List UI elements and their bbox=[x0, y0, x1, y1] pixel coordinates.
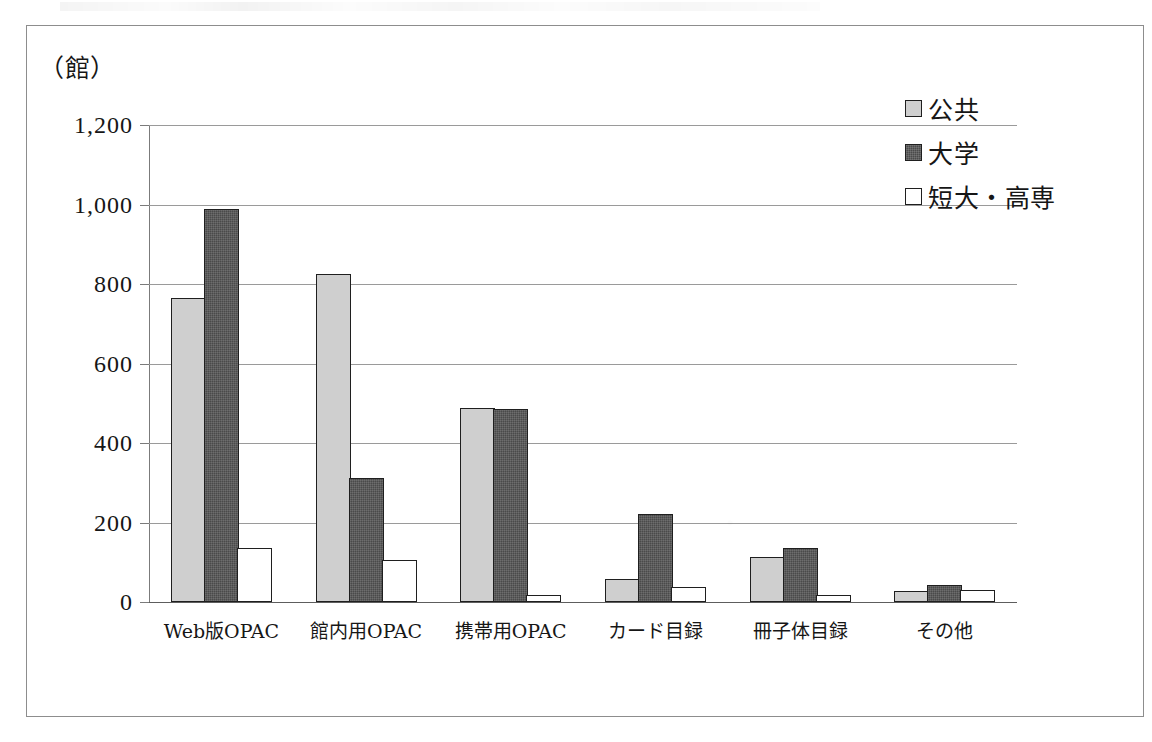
y-axis-tick-label: 400 bbox=[94, 430, 133, 457]
bar-大学-カード目録 bbox=[638, 514, 673, 602]
bar-短大・高専-その他 bbox=[960, 590, 995, 602]
y-axis-tick bbox=[140, 205, 149, 206]
chart-frame: （館） 1,2001,0008006004002000 Web版OPAC館内用O… bbox=[26, 25, 1144, 717]
bar-公共-冊子体目録 bbox=[750, 557, 785, 602]
y-axis-tick-label: 600 bbox=[94, 350, 133, 377]
x-axis-label-3: カード目録 bbox=[608, 616, 703, 643]
x-axis-label-1: 館内用OPAC bbox=[310, 616, 422, 643]
scan-artifact-strip bbox=[60, 2, 820, 11]
y-axis-unit-label: （館） bbox=[39, 48, 116, 84]
legend-item-短大・高専[interactable]: 短大・高専 bbox=[905, 174, 1120, 218]
bar-短大・高専-携帯用OPAC bbox=[526, 595, 561, 602]
bar-大学-携帯用OPAC bbox=[493, 409, 528, 602]
x-axis-label-4: 冊子体目録 bbox=[753, 616, 848, 643]
y-axis-tick bbox=[140, 125, 149, 126]
y-axis-tick-label: 200 bbox=[94, 509, 133, 536]
bar-短大・高専-館内用OPAC bbox=[382, 560, 417, 602]
bar-公共-携帯用OPAC bbox=[460, 408, 495, 602]
y-axis-tick-label: 800 bbox=[94, 271, 133, 298]
y-axis-tick bbox=[140, 602, 149, 603]
x-axis-label-2: 携帯用OPAC bbox=[455, 616, 567, 643]
bar-group bbox=[149, 125, 1017, 602]
legend-swatch-icon bbox=[905, 144, 922, 161]
legend-item-公共[interactable]: 公共 bbox=[905, 86, 1120, 130]
chart-legend: 公共大学短大・高専 bbox=[905, 86, 1120, 218]
legend-label: 大学 bbox=[928, 134, 979, 170]
bar-公共-館内用OPAC bbox=[316, 274, 351, 602]
plot-area: 1,2001,0008006004002000 Web版OPAC館内用OPAC携… bbox=[149, 125, 1017, 602]
bar-短大・高専-カード目録 bbox=[671, 587, 706, 603]
y-axis-tick-label: 1,000 bbox=[74, 191, 133, 218]
x-axis-baseline bbox=[149, 602, 1017, 603]
x-axis-label-0: Web版OPAC bbox=[164, 616, 279, 643]
y-axis-tick-label: 1,200 bbox=[74, 112, 133, 139]
bar-短大・高専-冊子体目録 bbox=[816, 595, 851, 602]
y-axis-tick bbox=[140, 284, 149, 285]
bar-大学-館内用OPAC bbox=[349, 478, 384, 602]
bar-短大・高専-Web版OPAC bbox=[237, 548, 272, 602]
x-axis-label-5: その他 bbox=[916, 616, 973, 643]
legend-item-大学[interactable]: 大学 bbox=[905, 130, 1120, 174]
bar-公共-その他 bbox=[894, 591, 929, 602]
bar-大学-その他 bbox=[927, 585, 962, 602]
y-axis-tick bbox=[140, 523, 149, 524]
legend-label: 短大・高専 bbox=[928, 178, 1056, 214]
legend-swatch-icon bbox=[905, 188, 922, 205]
y-axis-tick bbox=[140, 443, 149, 444]
bar-大学-Web版OPAC bbox=[204, 209, 239, 602]
bar-公共-Web版OPAC bbox=[171, 298, 206, 602]
legend-label: 公共 bbox=[928, 90, 979, 126]
bar-大学-冊子体目録 bbox=[783, 548, 818, 602]
y-axis-tick bbox=[140, 364, 149, 365]
bar-公共-カード目録 bbox=[605, 579, 640, 602]
y-axis-tick-label: 0 bbox=[120, 589, 133, 616]
legend-swatch-icon bbox=[905, 100, 922, 117]
